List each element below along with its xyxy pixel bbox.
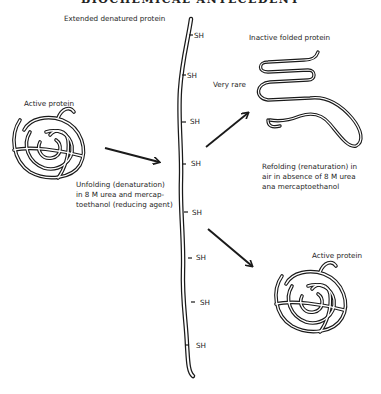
sh-label-2: SH [187,71,197,80]
inactive-folded-protein-shape [258,52,360,146]
sh-label-6: SH [196,253,206,262]
arrow-very-rare [206,113,248,147]
sh-label-5: SH [192,208,202,217]
sh-label-8: SH [196,341,206,350]
arrow-refolding [208,229,252,266]
arrow-unfolding [105,148,159,162]
refolding-line-2: air in absence of 8 M urea [262,172,357,182]
label-active-protein-right: Active protein [312,251,362,261]
label-unfolding-conditions: Unfolding (denaturation) in 8 M urea and… [76,180,173,210]
label-active-protein-left: Active protein [24,99,74,109]
unfolding-line-2: in 8 M urea and mercap- [76,190,173,200]
label-refolding-conditions: Refolding (renaturation) in air in absen… [262,162,357,192]
sh-label-4: SH [191,159,201,168]
sh-label-3: SH [190,117,200,126]
label-very-rare: Very rare [213,80,246,90]
refolding-line-1: Refolding (renaturation) in [262,162,357,172]
sh-label-1: SH [194,31,204,40]
sh-label-7: SH [200,298,210,307]
diagram-canvas [0,0,381,394]
label-inactive-folded-protein: Inactive folded protein [249,33,330,43]
unfolding-line-1: Unfolding (denaturation) [76,180,173,190]
refolding-line-3: ana mercaptoethanol [262,182,357,192]
unfolding-line-3: toethanol (reducing agent) [76,200,173,210]
label-extended-denatured-protein: Extended denatured protein [64,14,165,24]
